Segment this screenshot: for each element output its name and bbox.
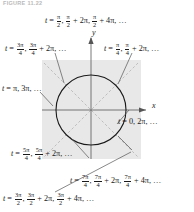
label-t-equals-pi-over-2: t = π2, π2 + 2π, π2 + 4π, … (45, 14, 127, 28)
math-text-run: , (61, 16, 65, 25)
label-t-equals-pi-over-4: t = π4, π4 + 2π, … (104, 42, 159, 56)
fraction-numerator: 3π (57, 192, 65, 199)
fraction-denominator: 2 (92, 21, 96, 29)
fraction-numerator: π (92, 14, 96, 21)
fraction-denominator: 4 (29, 49, 37, 57)
fraction: 7π4 (82, 174, 90, 188)
fraction-numerator: 3π (17, 42, 25, 49)
fraction-numerator: 7π (94, 174, 102, 181)
fraction-denominator: 2 (15, 199, 23, 207)
math-text-run: + 4π, … (132, 176, 161, 185)
x-axis-arrowhead (139, 107, 146, 112)
fraction-numerator: 3π (15, 192, 23, 199)
fraction: 3π2 (27, 192, 35, 206)
fraction-denominator: 2 (27, 199, 35, 207)
math-text-run: + 4π, … (65, 194, 94, 203)
fraction-denominator: 4 (23, 154, 31, 162)
math-text-run: + 2π, … (37, 44, 66, 53)
fraction-denominator: 4 (82, 181, 90, 189)
fraction-numerator: 7π (82, 174, 90, 181)
math-text-run: + 2π, (71, 16, 92, 25)
label-t-equals-3pi-over-4: t = 3π4, 3π4 + 2π, … (5, 42, 67, 56)
fraction: 7π4 (124, 174, 132, 188)
label-t-equals-pi: t = π, 3π, … (2, 85, 42, 93)
fraction: π4 (116, 42, 120, 56)
fraction-numerator: 7π (124, 174, 132, 181)
fraction-denominator: 4 (124, 181, 132, 189)
math-text-run: + 2π, … (43, 149, 72, 158)
math-text-run: + 2π, … (130, 44, 159, 53)
x-axis-label: x (152, 101, 156, 110)
label-t-equals-zero: t = 0, 2π, … (118, 118, 158, 126)
math-text-run: = (13, 149, 22, 158)
fraction-numerator: π (125, 42, 129, 49)
fraction: 3π2 (57, 192, 65, 206)
fraction: π4 (125, 42, 129, 56)
fraction: 3π4 (17, 42, 25, 56)
fraction-denominator: 4 (17, 49, 25, 57)
math-text-run: = (106, 44, 115, 53)
fraction: 3π2 (15, 192, 23, 206)
fraction-denominator: 2 (57, 199, 65, 207)
math-text-run: = π, 3π, … (4, 84, 41, 93)
math-text-run: + 4π, … (97, 16, 126, 25)
fraction: π2 (92, 14, 96, 28)
math-text-run: = 0, 2π, … (120, 117, 157, 126)
fraction-denominator: 4 (125, 49, 129, 57)
fraction: 3π4 (29, 42, 37, 56)
math-text-run: = (47, 16, 56, 25)
math-text-run: = (5, 194, 14, 203)
math-text-run: = (72, 176, 81, 185)
math-text-run: , (120, 44, 124, 53)
fraction-denominator: 4 (35, 154, 43, 162)
fraction-numerator: π (57, 14, 61, 21)
label-t-equals-5pi-over-4: t = 5π4, 5π4 + 2π, … (11, 147, 73, 161)
fraction-denominator: 2 (57, 21, 61, 29)
fraction-numerator: 3π (27, 192, 35, 199)
fraction-numerator: π (66, 14, 70, 21)
math-text-run: + 2π, (35, 194, 56, 203)
fraction: 5π4 (35, 147, 43, 161)
math-text-run: , (25, 44, 29, 53)
fraction-numerator: 5π (23, 147, 31, 154)
label-t-equals-7pi-over-4: t = 7π4, 7π4 + 2π, 7π4 + 4π, … (70, 174, 161, 188)
fraction-numerator: 3π (29, 42, 37, 49)
fraction: π2 (66, 14, 70, 28)
fraction: 5π4 (23, 147, 31, 161)
fraction-denominator: 2 (66, 21, 70, 29)
fraction: 7π4 (94, 174, 102, 188)
math-text-run: = (7, 44, 16, 53)
fraction-denominator: 4 (94, 181, 102, 189)
y-axis-arrowhead (88, 37, 93, 44)
math-text-run: , (23, 194, 27, 203)
math-text-run: , (31, 149, 35, 158)
fraction: π2 (57, 14, 61, 28)
figure-container: FIGURE 11.22 (0, 0, 194, 212)
label-t-equals-3pi-over-2: t = 3π2, 3π2 + 2π, 3π2 + 4π, … (3, 192, 94, 206)
math-text-run: , (90, 176, 94, 185)
fraction-denominator: 4 (116, 49, 120, 57)
fraction-numerator: 5π (35, 147, 43, 154)
math-text-run: + 2π, (102, 176, 123, 185)
y-axis-label: y (92, 28, 96, 37)
fraction-numerator: π (116, 42, 120, 49)
